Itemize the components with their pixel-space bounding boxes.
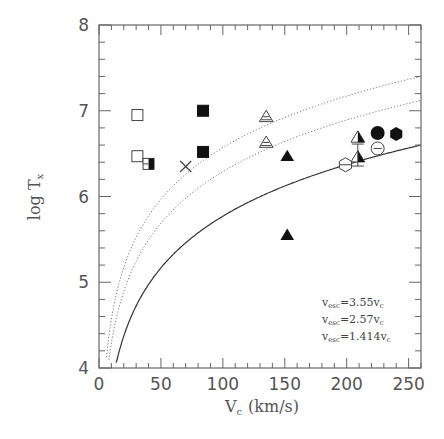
y-tick-labels: 45678: [78, 15, 89, 378]
scatter-chart: 050100150200250 45678 Vc(km/s) log Tx ve…: [0, 0, 444, 439]
x-tick-label: 150: [269, 374, 301, 394]
x-tick-labels: 050100150200250: [94, 374, 425, 394]
point-open-square: [132, 110, 143, 121]
x-tick-label: 0: [94, 374, 105, 394]
legend-entry-2.57: vesc=2.57vc: [321, 313, 384, 327]
y-tick-label: 4: [78, 358, 89, 378]
point-half-filled-triangle: [351, 131, 365, 142]
point-filled-hexagon: [390, 127, 402, 141]
point-filled-circle: [371, 126, 385, 140]
point-half-filled-square: [143, 158, 154, 169]
point-filled-square: [198, 105, 209, 116]
point-filled-triangle: [280, 229, 294, 240]
point-hatched-triangle: [259, 136, 273, 147]
point-hatched-triangle: [259, 110, 273, 121]
point-filled-triangle: [280, 150, 294, 161]
x-axis-label: Vc(km/s): [224, 397, 299, 417]
y-tick-label: 8: [78, 15, 89, 35]
data-points: [132, 105, 402, 240]
point-cross: [180, 161, 191, 172]
x-tick-label: 50: [150, 374, 172, 394]
x-tick-label: 250: [392, 374, 424, 394]
y-tick-label: 6: [78, 187, 89, 207]
point-open-circle-minus: [371, 142, 384, 155]
legend-entry-3.55: vesc=3.55vc: [321, 296, 384, 310]
x-tick-label: 200: [330, 374, 362, 394]
x-tick-label: 100: [207, 374, 239, 394]
point-open-square: [132, 151, 143, 162]
legend: vesc=3.55vc vesc=2.57vc vesc=1.414vc: [321, 296, 391, 344]
y-tick-label: 7: [78, 101, 89, 121]
y-axis-label: log Tx: [25, 173, 45, 220]
legend-entry-1.414: vesc=1.414vc: [321, 330, 391, 344]
point-filled-square: [198, 146, 209, 157]
y-tick-label: 5: [78, 272, 89, 292]
point-open-hexagon: [339, 158, 351, 172]
